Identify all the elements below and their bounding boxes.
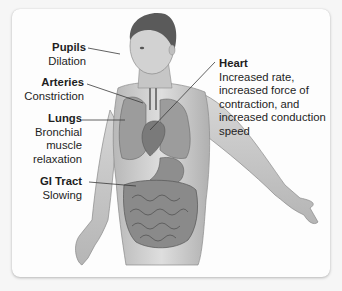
gi-tract-organ bbox=[124, 180, 198, 248]
lungs-label: Lungs Bronchial muscle relaxation bbox=[33, 112, 82, 166]
pupils-label: Pupils Dilation bbox=[48, 41, 86, 68]
gi-tract-title: GI Tract bbox=[40, 175, 82, 189]
eye bbox=[140, 47, 144, 50]
heart-description: Increased rate, increased force of contr… bbox=[219, 71, 326, 139]
gi-tract-label: GI Tract Slowing bbox=[40, 175, 82, 202]
arteries-title: Arteries bbox=[24, 76, 84, 90]
lungs-description: Bronchial muscle relaxation bbox=[33, 126, 82, 167]
arteries-description: Constriction bbox=[24, 90, 84, 104]
heart-title: Heart bbox=[219, 57, 326, 71]
heart-label: Heart Increased rate, increased force of… bbox=[219, 57, 326, 138]
head bbox=[130, 13, 176, 74]
gi-tract-description: Slowing bbox=[40, 189, 82, 203]
pupils-leader-line bbox=[88, 48, 120, 54]
ear bbox=[169, 45, 175, 55]
arteries-label: Arteries Constriction bbox=[24, 76, 84, 103]
pupils-description: Dilation bbox=[48, 55, 86, 69]
pupils-title: Pupils bbox=[48, 41, 86, 55]
lungs-title: Lungs bbox=[33, 112, 82, 126]
